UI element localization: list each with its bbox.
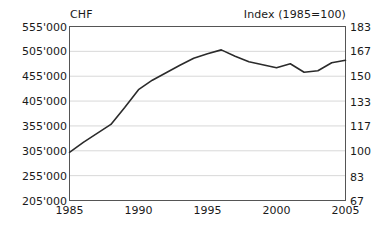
y-axis-left-tick-label: 555'000 bbox=[22, 21, 67, 32]
x-axis-tick-label: 2000 bbox=[263, 205, 291, 216]
x-axis-tick-label: 1985 bbox=[56, 205, 84, 216]
y-axis-right-tick-label: 100 bbox=[350, 146, 371, 157]
y-axis-left-tick-label: 505'000 bbox=[22, 46, 67, 57]
y-axis-right-tick-label: 183 bbox=[350, 21, 371, 32]
y-axis-right-tick-label: 83 bbox=[350, 171, 364, 182]
y-axis-right-tick-label: 117 bbox=[350, 120, 371, 131]
y-axis-left-tick-label: 405'000 bbox=[22, 96, 67, 107]
x-axis-tick-label: 1990 bbox=[125, 205, 153, 216]
y-axis-left-tick-label: 355'000 bbox=[22, 120, 67, 131]
gridlines bbox=[70, 51, 346, 175]
x-axis-tick-label: 2005 bbox=[332, 205, 360, 216]
y-axis-right-tick-label: 133 bbox=[350, 96, 371, 107]
y-axis-left-tick-label: 255'000 bbox=[22, 170, 67, 181]
chart-container: CHF Index (1985=100) 205'000255'000305'0… bbox=[0, 0, 380, 238]
y-axis-left-tick-label: 305'000 bbox=[22, 145, 67, 156]
y-axis-left-tick-label: 455'000 bbox=[22, 71, 67, 82]
x-axis-tick-label: 1995 bbox=[194, 205, 222, 216]
plot-frame bbox=[70, 27, 346, 201]
y-axis-right-tick-label: 150 bbox=[350, 71, 371, 82]
y-axis-right-tick-label: 167 bbox=[350, 45, 371, 56]
